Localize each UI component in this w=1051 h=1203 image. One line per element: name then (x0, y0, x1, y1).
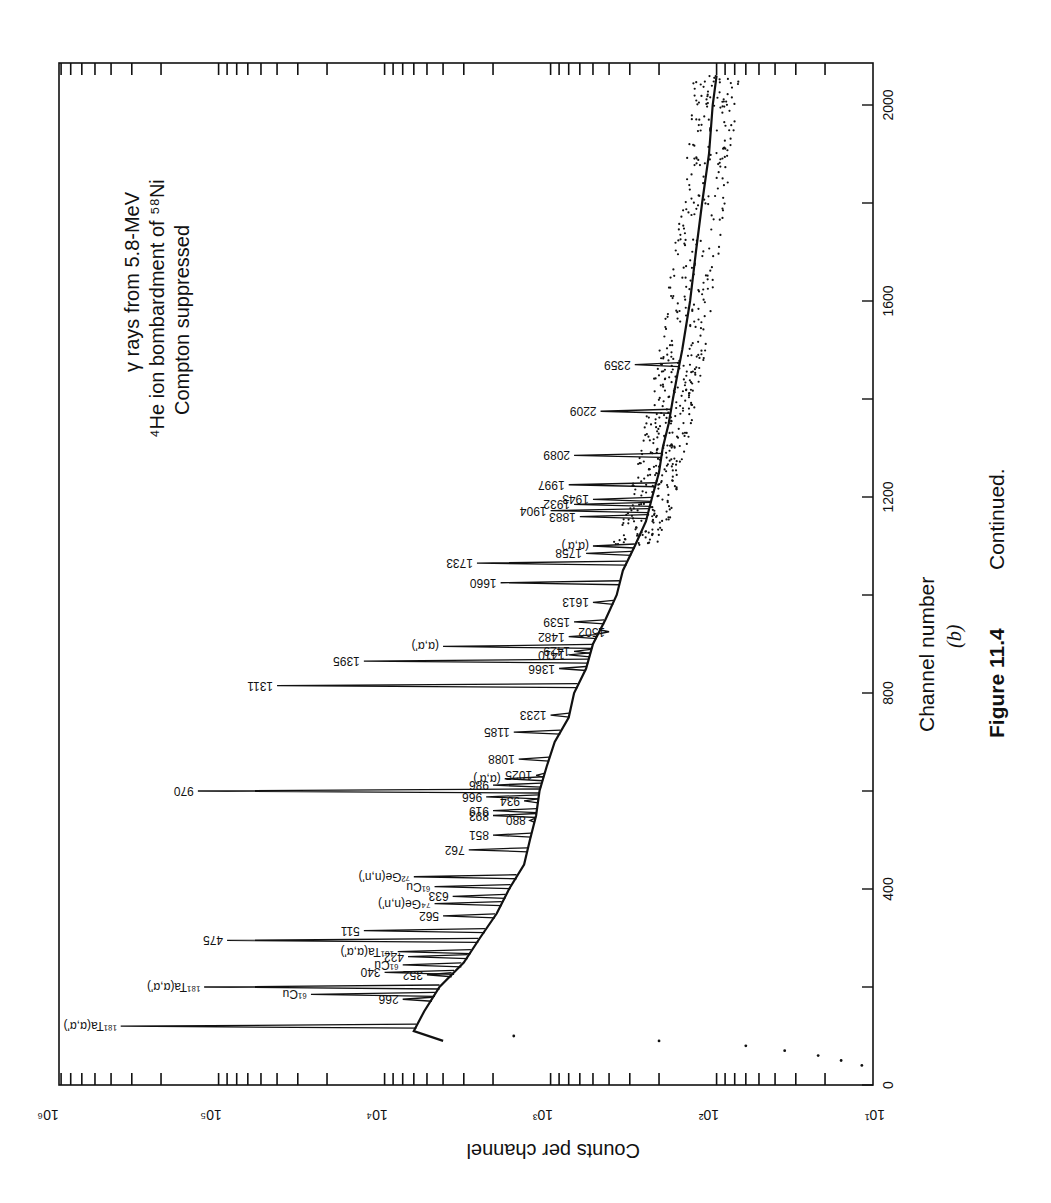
data-point (668, 450, 670, 452)
data-point (658, 534, 660, 536)
data-point (692, 82, 694, 84)
data-point (678, 310, 680, 312)
data-point (664, 389, 666, 391)
data-point (665, 518, 667, 520)
data-point (675, 249, 677, 251)
data-point (677, 253, 679, 255)
data-point (670, 507, 672, 509)
data-point (691, 382, 693, 384)
data-point (687, 211, 689, 213)
peak-label: 2359 (604, 358, 631, 372)
peak-line (311, 992, 435, 996)
peak-label: 934 (500, 794, 520, 808)
data-point (730, 82, 732, 84)
data-point (658, 465, 660, 467)
data-point (627, 522, 629, 524)
data-point (694, 95, 696, 97)
data-point (702, 182, 704, 184)
data-point (670, 351, 672, 353)
data-point (685, 307, 687, 309)
data-point (665, 511, 667, 513)
peak-line (408, 955, 468, 959)
data-point (696, 240, 698, 242)
data-point (726, 155, 728, 157)
data-point (655, 418, 657, 420)
data-point (683, 451, 685, 453)
data-point (712, 279, 714, 281)
data-point (702, 282, 704, 284)
peak-line (398, 950, 471, 954)
data-point (678, 228, 680, 230)
data-point (657, 428, 659, 430)
data-point (675, 464, 677, 466)
data-point (637, 463, 639, 465)
peak-label: ⁷⁴Ge(n,n') (378, 897, 430, 911)
data-point (655, 516, 657, 518)
data-point (690, 389, 692, 391)
data-point (681, 395, 683, 397)
data-point (661, 520, 663, 522)
data-point (675, 401, 677, 403)
data-point (691, 118, 693, 120)
data-point (707, 102, 709, 104)
data-point (679, 405, 681, 407)
data-point (658, 374, 660, 376)
data-point (683, 227, 685, 229)
data-point (693, 164, 695, 166)
data-point (666, 456, 668, 458)
data-point (658, 433, 660, 435)
data-point (721, 101, 723, 103)
data-point (665, 470, 667, 472)
data-point (700, 129, 702, 131)
peak-line (593, 600, 613, 604)
data-point (640, 450, 642, 452)
data-point (728, 110, 730, 112)
data-point (652, 519, 654, 521)
data-point (689, 189, 691, 191)
data-point (640, 462, 642, 464)
data-point (659, 458, 661, 460)
data-point (709, 310, 711, 312)
data-point (695, 366, 697, 368)
data-point (678, 428, 680, 430)
data-point (695, 81, 697, 83)
data-point (698, 381, 700, 383)
peak-label: 1943 (562, 492, 589, 506)
data-point (674, 415, 676, 417)
data-point (654, 404, 656, 406)
data-point (688, 288, 690, 290)
data-point (694, 326, 696, 328)
data-point (693, 213, 695, 215)
data-point (653, 466, 655, 468)
data-point (650, 423, 652, 425)
data-point (669, 508, 671, 510)
data-point (670, 356, 672, 358)
data-point (668, 286, 670, 288)
data-point (684, 384, 686, 386)
data-point (709, 96, 711, 98)
data-point (702, 86, 704, 88)
data-point (684, 239, 686, 241)
data-point (674, 388, 676, 390)
data-point (731, 86, 733, 88)
data-point (677, 386, 679, 388)
data-point (623, 541, 625, 543)
data-point (670, 416, 672, 418)
data-point (684, 381, 686, 383)
data-point (682, 407, 684, 409)
data-point (840, 1059, 843, 1062)
data-point (681, 458, 683, 460)
data-point (636, 535, 638, 537)
data-point (633, 493, 635, 495)
data-point (682, 432, 684, 434)
data-point (670, 422, 672, 424)
data-point (668, 420, 670, 422)
data-point (698, 119, 700, 121)
data-point (697, 318, 699, 320)
data-point (677, 437, 679, 439)
data-point (679, 321, 681, 323)
data-point (716, 129, 718, 131)
data-point (691, 267, 693, 269)
data-point (723, 98, 725, 100)
data-point (512, 1035, 515, 1038)
